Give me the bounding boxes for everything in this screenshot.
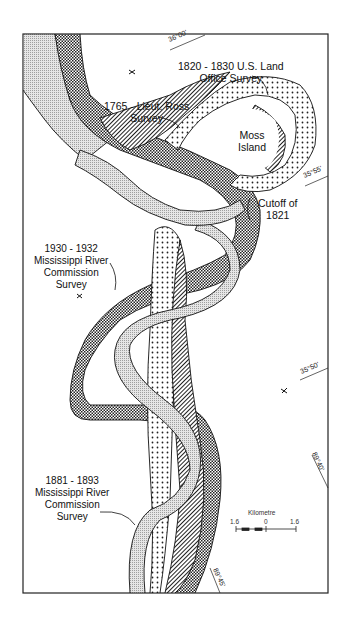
scale-unit: Kilometre [248,509,275,516]
label-cutoff: Cutoff of 1821 [258,197,298,221]
label-1930-survey: 1930 - 1932 Mississippi River Commission… [34,243,108,291]
label-moss-island: Moss Island [238,129,266,153]
river-map [0,0,345,626]
scale-left: 1.6 [230,518,239,525]
label-1881-survey: 1881 - 1893 Mississippi River Commission… [35,475,109,523]
scale-center: 0 [264,518,268,525]
scale-right: 1.6 [290,518,299,525]
label-1765-survey: 1765 - Lieut. Ross Survey [104,100,189,124]
label-1820-survey: 1820 - 1830 U.S. Land Office Survey [178,60,284,84]
